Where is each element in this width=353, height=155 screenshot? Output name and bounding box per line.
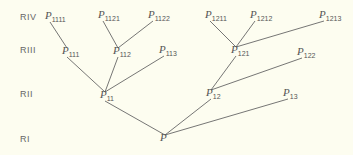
node-p122: P122 — [297, 46, 315, 59]
node-base: P — [205, 8, 212, 20]
node-subscript: 113 — [166, 50, 177, 57]
node-p111: P111 — [62, 45, 79, 58]
node-base: P — [319, 8, 326, 20]
node-base: P — [297, 45, 304, 57]
node-subscript: 11 — [107, 95, 114, 102]
node-p113: P113 — [159, 44, 177, 57]
tree-edge — [165, 99, 288, 135]
node-p12: P12 — [206, 87, 221, 100]
node-base: P — [250, 8, 257, 20]
tree-edge — [105, 57, 118, 92]
tree-edge — [105, 56, 164, 92]
node-base: P — [160, 131, 167, 143]
node-p1213: P1213 — [319, 9, 341, 22]
node-p1122: P1122 — [148, 9, 170, 22]
node-subscript: 13 — [290, 93, 298, 100]
node-subscript: 1211 — [212, 15, 227, 22]
node-base: P — [45, 9, 52, 21]
node-subscript: 112 — [120, 51, 131, 58]
node-subscript: 111 — [69, 51, 80, 58]
node-base: P — [159, 43, 166, 55]
node-p1111: P1111 — [45, 10, 66, 23]
node-subscript: 1213 — [326, 15, 342, 22]
node-base: P — [206, 86, 213, 98]
node-p1211: P1211 — [205, 9, 227, 22]
node-subscript: 1212 — [257, 15, 273, 22]
node-subscript: 1121 — [105, 15, 120, 22]
node-p112: P112 — [113, 45, 131, 58]
node-subscript: 121 — [238, 50, 250, 57]
node-subscript: 1122 — [155, 15, 170, 22]
node-subscript: 1111 — [52, 16, 66, 23]
node-p: P — [160, 132, 167, 143]
node-p11: P11 — [100, 89, 114, 102]
node-base: P — [98, 8, 105, 20]
tree-edge — [165, 99, 211, 135]
rank-label: RII — [20, 89, 33, 99]
tree-edges — [0, 0, 353, 155]
node-base: P — [231, 43, 238, 55]
node-base: P — [100, 88, 107, 100]
tree-edge — [118, 21, 153, 48]
node-p121: P121 — [231, 44, 249, 57]
rank-label: RI — [20, 134, 30, 144]
node-p13: P13 — [283, 87, 298, 100]
node-base: P — [62, 44, 69, 56]
node-subscript: 12 — [213, 93, 221, 100]
node-base: P — [283, 86, 290, 98]
node-base: P — [148, 8, 155, 20]
rank-label: RIII — [20, 45, 36, 55]
node-subscript: 122 — [304, 52, 316, 59]
node-p1212: P1212 — [250, 9, 272, 22]
tree-edge — [67, 57, 105, 92]
node-p1121: P1121 — [98, 9, 120, 22]
node-base: P — [113, 44, 120, 56]
rank-label: RIV — [20, 12, 37, 22]
tree-edge — [105, 101, 165, 135]
tree-edge — [211, 56, 236, 90]
